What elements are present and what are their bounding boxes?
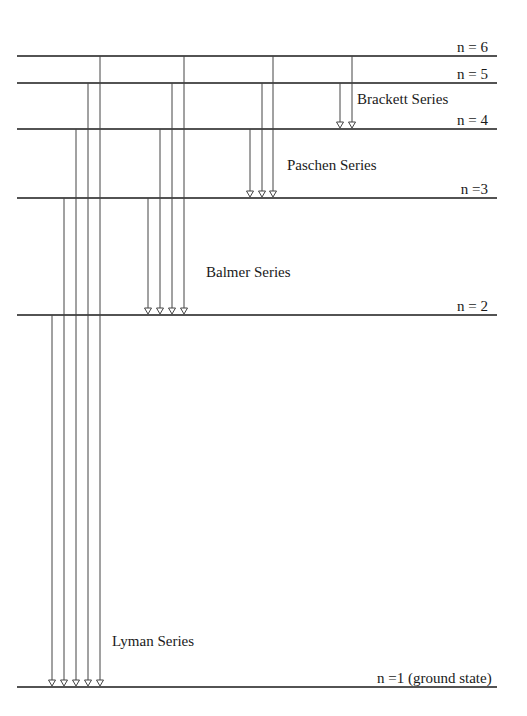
arrowhead-icon: [157, 308, 164, 314]
arrowhead-icon: [169, 308, 176, 314]
arrowhead-icon: [85, 680, 92, 686]
arrowhead-icon: [259, 191, 266, 197]
series-label-paschen: Paschen Series: [287, 158, 377, 173]
arrowhead-icon: [73, 680, 80, 686]
arrowhead-icon: [181, 308, 188, 314]
level-label-n1: n =1 (ground state): [377, 671, 492, 686]
arrowhead-icon: [337, 122, 344, 128]
arrowhead-icon: [61, 680, 68, 686]
level-label-n4: n = 4: [457, 113, 488, 128]
series-label-lyman: Lyman Series: [112, 634, 194, 649]
level-label-n5: n = 5: [457, 67, 488, 82]
arrowhead-icon: [349, 122, 356, 128]
arrowhead-icon: [247, 191, 254, 197]
arrowhead-icon: [145, 308, 152, 314]
level-label-n6: n = 6: [457, 40, 488, 55]
arrowhead-icon: [270, 191, 277, 197]
level-label-n2: n = 2: [457, 299, 488, 314]
energy-levels: [17, 56, 497, 687]
level-label-n3: n =3: [461, 182, 488, 197]
arrowhead-icon: [97, 680, 104, 686]
energy-level-diagram: [0, 0, 527, 716]
transition-arrows: [49, 56, 356, 686]
arrowhead-icon: [49, 680, 56, 686]
series-label-balmer: Balmer Series: [206, 265, 291, 280]
series-label-brackett: Brackett Series: [357, 92, 448, 107]
